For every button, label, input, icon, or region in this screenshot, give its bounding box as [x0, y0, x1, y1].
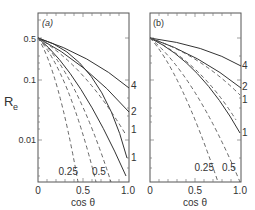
x-tick-0.5: 0.5 [76, 185, 90, 196]
label-0.25: 0.25 [59, 166, 79, 177]
panel-b-label: (b) [153, 18, 164, 28]
label-0.5: 0.5 [92, 166, 106, 177]
x-tick-0-b: 0 [147, 185, 153, 196]
label-1b: 1 [131, 152, 137, 163]
curve-dashed-0.25-b [150, 38, 218, 182]
curve-solid-4-b [150, 38, 241, 66]
curve-dashed-1 [38, 38, 111, 182]
label-1-b: 1 [242, 94, 248, 105]
x-tick-1.0-b: 1.0 [233, 185, 247, 196]
label-2-b: 2 [242, 81, 248, 92]
x-tick-0.5-b: 0.5 [188, 185, 202, 196]
y-tick-0.01: 0.01 [18, 135, 36, 145]
x-tick-0: 0 [35, 185, 41, 196]
label-0.5-b: 0.5 [222, 162, 236, 173]
panel-b-curves [150, 38, 241, 133]
y-axis-label: R [4, 94, 13, 109]
x-tick-1.0: 1.0 [121, 185, 135, 196]
panel-a-x-ticks [47, 13, 119, 182]
panel-a-curves [38, 38, 129, 176]
label-4-b: 4 [242, 60, 248, 71]
figure: R e (a) 0.5 0.1 0.01 [0, 0, 255, 210]
panel-a-label: (a) [42, 18, 53, 28]
panel-a: (a) 0.5 0.1 0.01 [18, 13, 137, 208]
label-1: 1 [131, 124, 137, 135]
curve-dashed-2 [38, 38, 126, 135]
curve-solid-2 [38, 38, 129, 112]
y-axis-label-subscript: e [13, 102, 18, 112]
x-axis-label: cos θ [71, 197, 95, 208]
x-axis-label-b: cos θ [183, 197, 207, 208]
label-4: 4 [131, 80, 137, 91]
y-tick-0.1: 0.1 [23, 75, 36, 85]
panel-a-dashed-curves [38, 38, 126, 182]
panel-b-frame [150, 13, 241, 182]
curve-solid-1 [38, 38, 126, 176]
label-0.25-b: 0.25 [195, 162, 215, 173]
label-1b-b: 1 [242, 127, 248, 138]
y-tick-0.5: 0.5 [23, 34, 36, 44]
label-2: 2 [131, 106, 137, 117]
panel-b: (b) [147, 13, 248, 208]
